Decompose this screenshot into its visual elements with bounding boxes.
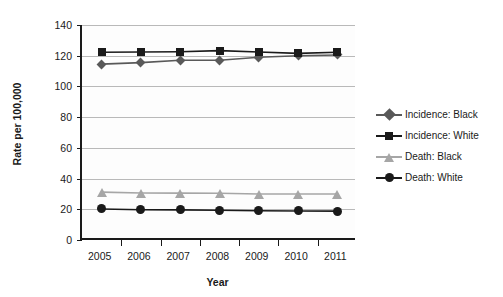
x-axis-tick (200, 240, 201, 246)
legend-item-label: Death: White (402, 172, 463, 183)
legend-item[interactable]: Death: White (376, 167, 500, 188)
y-axis-tick-label: 0 (38, 235, 72, 245)
plot-area (80, 25, 355, 240)
legend-item-label: Death: Black (402, 151, 462, 162)
square-marker (255, 48, 263, 56)
square-marker (98, 48, 106, 56)
triangle-marker (175, 189, 185, 198)
line-chart: 020406080100120140 200520062007200820092… (0, 0, 503, 297)
x-axis-tick-label: 2005 (80, 251, 120, 262)
legend-item[interactable]: Incidence: White (376, 125, 500, 146)
square-marker (294, 49, 302, 57)
y-axis-tick-label: 100 (38, 81, 72, 91)
y-axis-tick-label: 60 (38, 143, 72, 153)
triangle-marker (293, 190, 303, 199)
diamond-icon (383, 108, 396, 121)
x-axis-tick-label: 2010 (276, 251, 316, 262)
y-axis-tick-label: 80 (38, 112, 72, 122)
square-marker (137, 48, 145, 56)
triangle-icon (384, 153, 394, 162)
y-axis-tick-label: 20 (38, 204, 72, 214)
x-axis-tick-label: 2008 (198, 251, 238, 262)
circle-icon (385, 173, 394, 182)
square-marker (176, 48, 184, 56)
x-axis-tick-label: 2009 (237, 251, 277, 262)
legend-item-label: Incidence: White (402, 130, 479, 141)
y-axis-tick-label: 140 (38, 20, 72, 30)
y-axis-tick-label: 120 (38, 51, 72, 61)
x-axis-tick (239, 240, 240, 246)
legend-item[interactable]: Death: Black (376, 146, 500, 167)
square-marker (333, 48, 341, 56)
chart-legend: Incidence: BlackIncidence: WhiteDeath: B… (376, 104, 500, 188)
legend-marker (376, 108, 402, 122)
y-axis-tick-label: 40 (38, 174, 72, 184)
y-axis-title: Rate per 100,000 (11, 64, 23, 184)
square-marker (216, 47, 224, 55)
legend-item-label: Incidence: Black (402, 109, 478, 120)
legend-marker (376, 171, 402, 185)
x-axis-title: Year (80, 276, 355, 288)
square-icon (385, 132, 393, 140)
triangle-marker (332, 190, 342, 199)
x-axis-tick (278, 240, 279, 246)
x-axis-tick (161, 240, 162, 246)
legend-marker (376, 129, 402, 143)
x-axis-tick-label: 2011 (315, 251, 355, 262)
legend-item[interactable]: Incidence: Black (376, 104, 500, 125)
circle-marker (215, 206, 224, 215)
circle-marker (333, 207, 342, 216)
triangle-marker (97, 188, 107, 197)
x-axis-tick-label: 2006 (119, 251, 159, 262)
x-axis-tick-label: 2007 (158, 251, 198, 262)
triangle-marker (136, 189, 146, 198)
x-axis-tick (318, 240, 319, 246)
legend-marker (376, 150, 402, 164)
x-axis-tick (121, 240, 122, 246)
triangle-marker (254, 190, 264, 199)
triangle-marker (215, 189, 225, 198)
y-axis-tick (77, 240, 82, 241)
